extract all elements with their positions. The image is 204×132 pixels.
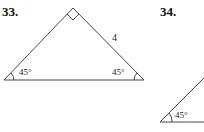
right-angle-marker	[67, 14, 79, 20]
side-label: 4	[112, 32, 117, 43]
angle-label-right: 45°	[112, 67, 125, 77]
angle-arc	[169, 113, 172, 122]
angle-label-34: 45°	[175, 110, 188, 120]
angle-label-left: 45°	[19, 67, 32, 77]
problem-number-33: 33.	[2, 4, 18, 20]
angle-arc-left	[11, 73, 14, 80]
problem-number-34: 34.	[160, 4, 176, 20]
angle-arc-right	[134, 73, 137, 80]
